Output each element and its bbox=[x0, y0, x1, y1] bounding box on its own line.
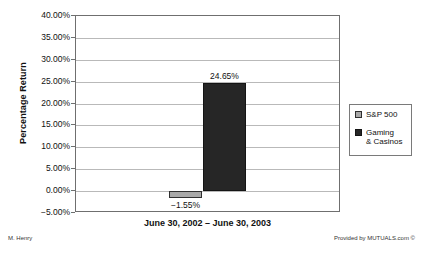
legend-label-gaming: Gaming & Casinos bbox=[366, 128, 402, 147]
y-axis-tick-label: 10.00% bbox=[24, 142, 70, 151]
chart-legend: S&P 500Gaming & Casinos bbox=[349, 104, 412, 156]
footer-credit-right: Provided by MUTUALS.com © bbox=[334, 235, 415, 241]
legend-label-sp500: S&P 500 bbox=[366, 110, 397, 120]
y-axis-tick-label: 15.00% bbox=[24, 120, 70, 129]
y-axis-tick-label: 25.00% bbox=[24, 76, 70, 85]
y-axis-tick-label: −5.00% bbox=[24, 208, 70, 217]
y-axis-tick-label: 35.00% bbox=[24, 32, 70, 41]
legend-swatch-icon-sp500 bbox=[355, 111, 362, 118]
data-label-gaming: 24.65% bbox=[195, 71, 255, 81]
legend-entry-gaming[interactable]: Gaming & Casinos bbox=[355, 128, 411, 147]
y-axis-tick-label: 30.00% bbox=[24, 54, 70, 63]
bar-gaming bbox=[203, 83, 246, 191]
bar-chart-figure: Percentage Return 40.00%35.00%30.00%25.0… bbox=[0, 0, 425, 253]
y-axis-tick-label: 0.00% bbox=[24, 186, 70, 195]
plot-area: −1.55%24.65% bbox=[75, 15, 340, 212]
y-axis-tick-label: 5.00% bbox=[24, 164, 70, 173]
legend-swatch-icon-gaming bbox=[355, 129, 362, 136]
footer-credit-left: M. Henry bbox=[8, 235, 32, 241]
legend-entry-sp500[interactable]: S&P 500 bbox=[355, 110, 411, 120]
y-axis-tick-label: 20.00% bbox=[24, 98, 70, 107]
y-axis-tick-label: 40.00% bbox=[24, 11, 70, 20]
y-axis-tick-mark bbox=[71, 212, 75, 213]
y-axis-tick-labels: 40.00%35.00%30.00%25.00%20.00%15.00%10.0… bbox=[24, 15, 70, 212]
bar-sp500 bbox=[169, 191, 202, 198]
bars-layer: −1.55%24.65% bbox=[76, 16, 339, 211]
x-axis-title: June 30, 2002 – June 30, 2003 bbox=[75, 218, 340, 228]
data-label-sp500: −1.55% bbox=[156, 200, 216, 210]
